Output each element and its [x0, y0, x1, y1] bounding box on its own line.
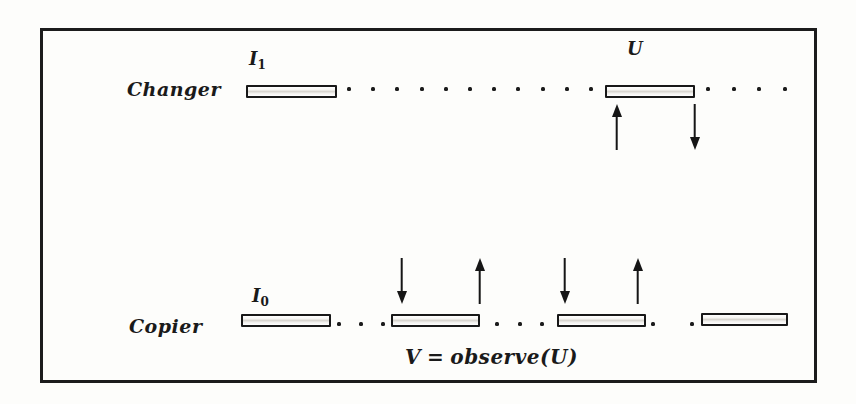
tape-dot [420, 87, 424, 91]
tape-box-copier-2 [391, 314, 480, 327]
tape-dot [706, 87, 710, 91]
figure-canvas: Changer I1 U Copier I0 V=observe(U) [0, 0, 856, 404]
i1-label: I1 [249, 48, 266, 72]
tape-dot [757, 87, 761, 91]
tape-dot [468, 87, 472, 91]
tape-dot [444, 87, 448, 91]
tape-box-copier-3 [557, 314, 646, 327]
tape-dot [371, 87, 375, 91]
tape-dot [651, 322, 655, 326]
down-arrow-icon [396, 258, 407, 304]
tape-dot [492, 87, 496, 91]
copier-dots-gap3 [651, 320, 694, 327]
tape-dot [347, 87, 351, 91]
up-arrow-shaft [478, 265, 481, 304]
tape-dot [541, 87, 545, 91]
changer-dots-gap1 [347, 85, 593, 92]
tape-dot [495, 322, 499, 326]
i0-label: I0 [252, 285, 269, 309]
u-label: U [627, 38, 643, 59]
tape-dot [359, 322, 363, 326]
i0-subscript: 0 [260, 295, 268, 309]
formula-rhs: observe(U) [450, 345, 578, 369]
tape-dot [337, 322, 341, 326]
tape-box-u [605, 85, 695, 98]
formula-lhs: V [405, 345, 421, 369]
up-arrow-icon [632, 258, 643, 304]
up-arrow-shaft [615, 111, 618, 150]
tape-box-copier-4 [701, 313, 788, 326]
tape-box-i0 [241, 314, 331, 327]
tape-dot [565, 87, 569, 91]
up-arrow-icon [611, 104, 622, 150]
tape-dot [381, 322, 385, 326]
formula-equals: = [421, 345, 450, 369]
tape-dot [518, 322, 522, 326]
copier-row-label: Copier [129, 315, 202, 337]
tape-dot [783, 87, 787, 91]
tape-dot [732, 87, 736, 91]
tape-box-i1 [246, 85, 337, 98]
tape-dot [516, 87, 520, 91]
down-arrow-shaft [693, 104, 696, 143]
tape-dot [589, 87, 593, 91]
i1-subscript: 1 [257, 58, 265, 72]
tape-dot [690, 322, 694, 326]
changer-row-label: Changer [127, 78, 221, 100]
copier-dots-gap2 [495, 320, 544, 327]
up-arrow-icon [474, 258, 485, 304]
changer-dots-gap2 [706, 85, 787, 92]
up-arrow-shaft [636, 265, 639, 304]
copier-dots-gap1 [337, 320, 385, 327]
down-arrow-shaft [563, 258, 566, 297]
down-arrow-icon [559, 258, 570, 304]
formula-observe: V=observe(U) [405, 345, 578, 369]
down-arrow-shaft [400, 258, 403, 297]
tape-dot [395, 87, 399, 91]
tape-dot [540, 322, 544, 326]
down-arrow-icon [689, 104, 700, 150]
